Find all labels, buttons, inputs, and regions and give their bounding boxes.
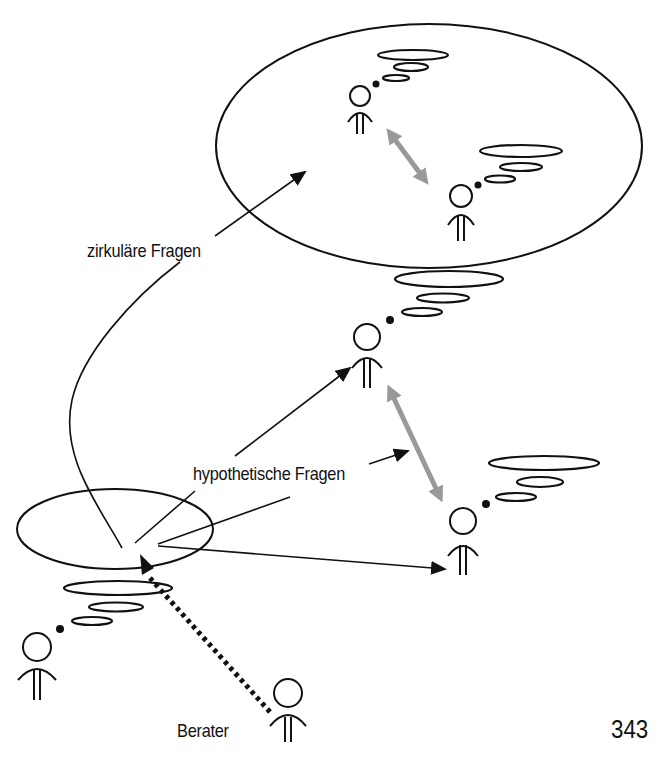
system-ellipse	[216, 24, 642, 268]
advisor-dotted-arrow	[150, 578, 270, 712]
hypothetical-questions-label: hypothetische Fragen	[193, 463, 345, 485]
person-right-icon	[448, 508, 478, 575]
interaction-double-arrow	[390, 390, 440, 497]
question-arrow-right-person	[158, 546, 445, 569]
hypothetical-question-arrow-between-upper	[369, 451, 408, 464]
circular-question-arrow	[70, 262, 180, 548]
systemic-questions-diagram	[0, 0, 664, 758]
thought-bubble-icon	[475, 145, 563, 189]
system-person-a-icon	[348, 86, 372, 134]
interaction-double-arrow	[390, 133, 425, 180]
system-person-b-icon	[448, 185, 474, 241]
thought-bubble-icon	[56, 581, 172, 633]
circular-questions-label: zirkuläre Fragen	[87, 240, 201, 262]
hypothetical-question-arrow-middle-upper	[235, 368, 350, 456]
circular-question-arrow-head-segment	[215, 172, 305, 236]
hypothetical-question-arrow-middle	[135, 491, 195, 543]
hypothetical-question-arrow-between	[158, 497, 290, 544]
advisor-arrow-head	[140, 554, 154, 575]
thought-bubble-icon	[386, 271, 503, 324]
person-middle-icon	[352, 324, 382, 388]
advisor-person-icon	[270, 679, 306, 742]
client-person-icon	[18, 633, 56, 700]
page-number: 343	[611, 714, 648, 745]
thought-bubble-icon	[373, 50, 449, 88]
thought-bubble-icon	[482, 456, 599, 508]
advisor-label: Berater	[177, 720, 229, 742]
